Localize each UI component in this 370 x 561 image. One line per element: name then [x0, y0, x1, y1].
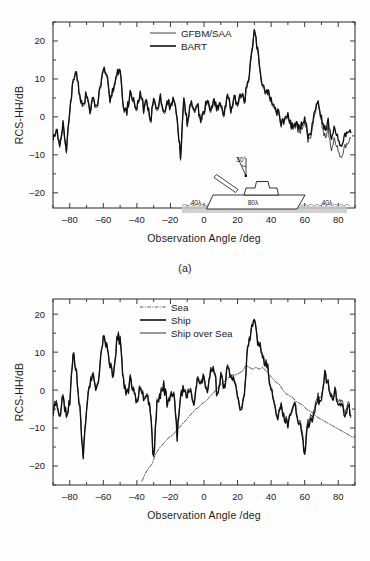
panel-a: –80–60–40–2002040608020100–10–20Observat… — [0, 0, 370, 281]
x-tick-label: 0 — [201, 491, 206, 502]
x-tick-label: –60 — [95, 491, 111, 502]
x-tick-label: –40 — [129, 214, 145, 225]
series-sea — [142, 365, 355, 481]
y-tick-label: 20 — [34, 35, 45, 46]
x-tick-label: 80 — [333, 491, 344, 502]
legend-label: Sea — [171, 302, 189, 313]
legend-label: GFBM/SAA — [181, 28, 232, 39]
inset-label-angle: 30° — [236, 156, 246, 163]
y-tick-label: 10 — [34, 73, 45, 84]
plot-group: –80–60–40–2002040608020100–10–20Observat… — [13, 299, 355, 521]
x-tick-label: –60 — [95, 214, 111, 225]
x-tick-label: 20 — [232, 491, 243, 502]
x-tick-label: 80 — [333, 214, 344, 225]
y-tick-label: 0 — [40, 111, 45, 122]
x-tick-label: –20 — [163, 214, 179, 225]
legend-label: BART — [181, 41, 207, 52]
x-tick-label: –20 — [163, 491, 179, 502]
y-axis-title: RCS-HH/dB — [13, 363, 25, 421]
ship-inset: 40λ80λ40λ30° — [182, 156, 350, 214]
panel-a-plot: –80–60–40–2002040608020100–10–20Observat… — [0, 0, 370, 281]
series-ship-over-sea — [53, 319, 351, 454]
panel-a-caption: (a) — [0, 262, 370, 274]
ship-superstructure — [244, 182, 279, 196]
x-tick-label: –80 — [62, 491, 78, 502]
incident-wave-arrow — [214, 175, 238, 193]
legend: SeaShipShip over Sea — [140, 302, 233, 339]
plot-group: –80–60–40–2002040608020100–10–20Observat… — [13, 22, 355, 244]
x-axis-title: Observation Angle /deg — [147, 232, 261, 244]
inset-label-right-extent: 40λ — [322, 199, 333, 206]
y-tick-label: 20 — [34, 309, 45, 320]
inset-label-left-extent: 40λ — [191, 199, 202, 206]
x-tick-label: 40 — [266, 491, 277, 502]
x-tick-label: –80 — [62, 214, 78, 225]
legend-label: Ship — [171, 315, 191, 326]
y-axis-title: RCS-HH/dB — [13, 86, 25, 144]
x-tick-label: 20 — [232, 214, 243, 225]
panel-b: –80–60–40–2002040608020100–10–20Observat… — [0, 281, 370, 561]
x-tick-label: 60 — [299, 491, 310, 502]
y-tick-label: –20 — [29, 187, 45, 198]
x-axis-title: Observation Angle /deg — [147, 509, 261, 521]
legend-label: Ship over Sea — [171, 328, 233, 339]
figure-page: –80–60–40–2002040608020100–10–20Observat… — [0, 0, 370, 561]
legend: GFBM/SAABART — [150, 28, 232, 52]
curves-group — [53, 319, 355, 481]
x-tick-label: 0 — [201, 214, 206, 225]
y-tick-label: 10 — [34, 347, 45, 358]
y-tick-label: –10 — [29, 149, 45, 160]
y-tick-label: –10 — [29, 422, 45, 433]
panel-b-plot: –80–60–40–2002040608020100–10–20Observat… — [0, 281, 370, 561]
y-tick-label: –20 — [29, 460, 45, 471]
y-tick-label: 0 — [40, 385, 45, 396]
angle-vertex-marker — [245, 175, 247, 177]
x-tick-label: 60 — [299, 214, 310, 225]
inset-label-ship-length: 80λ — [248, 199, 259, 206]
x-tick-label: –40 — [129, 491, 145, 502]
x-tick-label: 40 — [266, 214, 277, 225]
